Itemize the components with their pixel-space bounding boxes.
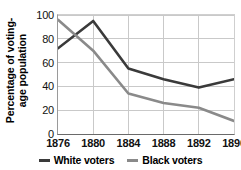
plot-area bbox=[57, 14, 235, 135]
y-tick-label: 100 bbox=[30, 9, 54, 21]
x-tick-label: 1888 bbox=[152, 137, 176, 149]
y-axis-title-line-1: Percentage of voting- bbox=[5, 17, 17, 122]
legend-label: White voters bbox=[54, 154, 115, 166]
y-tick-label: 20 bbox=[30, 104, 54, 116]
x-tick-label: 1892 bbox=[187, 137, 211, 149]
plot-svg bbox=[58, 15, 234, 134]
x-tick-label: 1880 bbox=[81, 137, 105, 149]
y-tick-label: 40 bbox=[30, 80, 54, 92]
legend-line-swatch bbox=[39, 159, 50, 162]
legend-item-black-voters[interactable]: Black voters bbox=[127, 154, 202, 166]
series-line-white-voters bbox=[58, 21, 234, 88]
y-tick-label: 80 bbox=[30, 33, 54, 45]
x-tick-label: 1896 bbox=[222, 137, 241, 149]
legend-label: Black voters bbox=[142, 154, 202, 166]
y-axis-title-line-2: age population bbox=[17, 17, 29, 122]
y-tick-label: 60 bbox=[30, 57, 54, 69]
x-tick-label: 1884 bbox=[117, 137, 141, 149]
chart-legend: White votersBlack voters bbox=[0, 152, 241, 168]
chart-figure: Percentage of voting- age population 020… bbox=[0, 0, 241, 170]
legend-item-white-voters[interactable]: White voters bbox=[39, 154, 115, 166]
series-line-black-voters bbox=[58, 20, 234, 121]
legend-line-swatch bbox=[127, 159, 138, 162]
x-tick-label: 1876 bbox=[46, 137, 70, 149]
y-axis-title-text: Percentage of voting- age population bbox=[6, 17, 29, 122]
x-axis-tick-labels: 187618801884188818921896 bbox=[57, 137, 235, 153]
